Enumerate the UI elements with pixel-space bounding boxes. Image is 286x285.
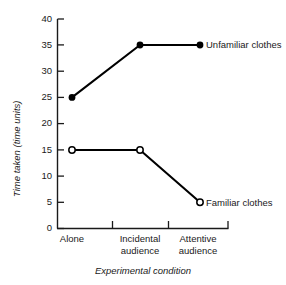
y-tick-label-5: 5 — [14, 197, 52, 207]
series-unfamiliar-line — [72, 45, 200, 97]
data-point-marker — [69, 94, 76, 101]
series-familiar-line — [72, 150, 200, 202]
y-tick-label-40: 40 — [14, 14, 52, 24]
x-category-label-line: Incidental — [112, 233, 168, 245]
x-category-label-line: Alone — [52, 233, 92, 245]
x-category-label-line: audience — [112, 245, 168, 257]
x-category-label-attentive-audience: Attentive audience — [170, 233, 226, 256]
data-point-marker — [137, 147, 143, 153]
line-chart-figure: 40 35 30 25 20 15 10 5 0 Time taken (tim… — [0, 0, 286, 285]
data-point-marker — [197, 42, 204, 49]
y-tick-label-0: 0 — [14, 223, 52, 233]
y-axis-ticks — [58, 19, 65, 229]
y-tick-label-35: 35 — [14, 40, 52, 50]
series-familiar-clothes — [69, 147, 203, 206]
y-axis-title: Time taken (time units) — [11, 100, 22, 197]
data-point-marker — [69, 147, 75, 153]
series-label-unfamiliar-clothes: Unfamiliar clothes — [206, 40, 282, 50]
data-point-marker — [137, 42, 144, 49]
y-tick-label-30: 30 — [14, 66, 52, 76]
series-label-familiar-clothes: Familiar clothes — [206, 198, 273, 208]
data-point-marker — [197, 199, 203, 205]
x-category-label-alone: Alone — [52, 233, 92, 245]
series-unfamiliar-clothes — [69, 42, 204, 101]
x-axis-title: Experimental condition — [0, 265, 286, 276]
x-category-label-line: audience — [170, 245, 226, 257]
x-category-label-line: Attentive — [170, 233, 226, 245]
x-axis-ticks — [113, 221, 229, 229]
x-category-label-incidental-audience: Incidental audience — [112, 233, 168, 256]
